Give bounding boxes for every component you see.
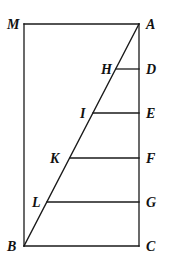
label-D: D [145,62,156,77]
label-K: K [49,151,61,166]
label-H: H [100,62,113,77]
label-F: F [145,151,156,166]
label-A: A [145,17,155,32]
label-B: B [6,239,16,254]
segment-AB-diagonal [24,24,139,246]
label-L: L [31,195,41,210]
geometry-diagram: M A H D I E K F L G B C [0,0,169,266]
label-E: E [145,106,155,121]
label-I: I [79,106,86,121]
label-G: G [146,195,156,210]
label-C: C [146,239,156,254]
label-M: M [6,17,20,32]
